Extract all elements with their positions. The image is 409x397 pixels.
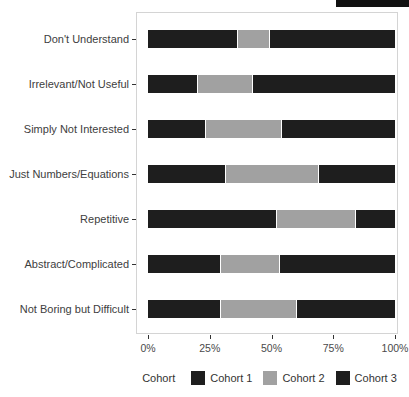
bar-row — [148, 30, 395, 48]
bar-row — [148, 210, 395, 228]
x-axis-tick — [210, 335, 211, 339]
bar-segment — [148, 210, 276, 228]
y-axis-tick — [132, 174, 136, 175]
legend-swatch — [191, 371, 205, 385]
bar-segment — [237, 30, 269, 48]
legend-swatch — [263, 371, 277, 385]
x-axis-tick — [395, 335, 396, 339]
bar-row — [148, 75, 395, 93]
legend-item: Cohort 1 — [191, 371, 252, 385]
y-axis-label: Don't Understand — [0, 32, 129, 46]
cropped-dark-strip — [336, 0, 409, 7]
x-axis-tick — [148, 335, 149, 339]
bar-segment — [148, 165, 225, 183]
bar-segment — [148, 30, 237, 48]
bar-row — [148, 120, 395, 138]
x-axis-tick-label: 50% — [261, 342, 282, 354]
bar-segment — [318, 165, 395, 183]
x-axis-tick — [333, 335, 334, 339]
bar-segment — [252, 75, 395, 93]
x-axis-tick-label: 75% — [323, 342, 344, 354]
y-axis-label: Abstract/Complicated — [0, 257, 129, 271]
x-axis-tick-label: 25% — [199, 342, 220, 354]
bar-segment — [296, 300, 395, 318]
bar-segment — [148, 255, 220, 273]
bar-segment — [276, 210, 355, 228]
stacked-bar-chart-figure: Don't UnderstandIrrelevant/Not UsefulSim… — [0, 0, 409, 397]
bar-segment — [148, 300, 220, 318]
x-axis-tick-label: 100% — [382, 342, 409, 354]
bar-segment — [220, 255, 279, 273]
x-axis-tick — [272, 335, 273, 339]
bar-segment — [279, 255, 395, 273]
y-axis-label: Just Numbers/Equations — [0, 167, 129, 181]
y-axis-tick — [132, 39, 136, 40]
bar-segment — [205, 120, 282, 138]
bar-segment — [355, 210, 395, 228]
legend-item: Cohort 2 — [263, 371, 324, 385]
y-axis-tick — [132, 129, 136, 130]
bar-segment — [148, 120, 205, 138]
y-axis-label: Repetitive — [0, 212, 129, 226]
bar-segment — [148, 75, 197, 93]
x-axis-tick-label: 0% — [140, 342, 155, 354]
bar-row — [148, 165, 395, 183]
bar-segment — [269, 30, 395, 48]
bar-segment — [281, 120, 395, 138]
bar-row — [148, 255, 395, 273]
bar-segment — [197, 75, 251, 93]
legend-label: Cohort 2 — [282, 372, 324, 384]
bar-segment — [225, 165, 319, 183]
legend: Cohort Cohort 1Cohort 2Cohort 3 — [130, 368, 409, 388]
legend-swatch — [336, 371, 350, 385]
legend-items: Cohort 1Cohort 2Cohort 3 — [191, 371, 397, 385]
y-axis-label: Irrelevant/Not Useful — [0, 77, 129, 91]
y-axis-tick — [132, 219, 136, 220]
y-axis-tick — [132, 264, 136, 265]
y-axis-tick — [132, 84, 136, 85]
y-axis-label: Not Boring but Difficult — [0, 302, 129, 316]
legend-title: Cohort — [142, 372, 175, 384]
y-axis-label: Simply Not Interested — [0, 122, 129, 136]
legend-label: Cohort 1 — [210, 372, 252, 384]
y-axis-tick — [132, 309, 136, 310]
legend-label: Cohort 3 — [355, 372, 397, 384]
legend-item: Cohort 3 — [336, 371, 397, 385]
bar-segment — [220, 300, 297, 318]
bar-row — [148, 300, 395, 318]
